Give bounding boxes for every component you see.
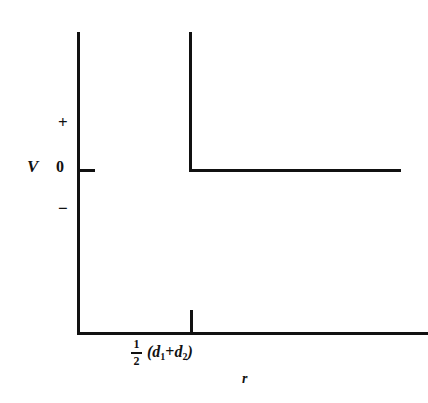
- x-axis-midpoint-tick: [190, 310, 193, 333]
- x-axis-tick-label: 1 2 (d1+d2): [131, 338, 193, 367]
- potential-zero-segment: [189, 169, 401, 172]
- one-half-fraction: 1 2: [131, 338, 142, 367]
- potential-wall-segment: [189, 32, 192, 172]
- x-axis-line: [77, 332, 428, 335]
- y-axis-zero-label: 0: [56, 159, 64, 175]
- y-axis-zero-tick: [80, 169, 95, 172]
- close-paren: ): [187, 343, 192, 360]
- y-axis-minus-label: −: [58, 200, 68, 217]
- x-axis-label: r: [242, 372, 247, 386]
- y-axis-line: [77, 32, 80, 335]
- fraction-denominator: 2: [132, 354, 142, 368]
- y-axis-plus-label: +: [58, 114, 68, 131]
- y-axis-label: V: [27, 158, 38, 175]
- potential-step-figure: + V 0 − 1 2 (d1+d2) r: [0, 0, 428, 403]
- distance-sum-expression: (d1+d2): [147, 344, 193, 362]
- fraction-numerator: 1: [132, 338, 142, 352]
